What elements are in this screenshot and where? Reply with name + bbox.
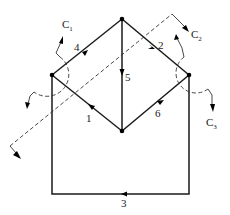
cutset-label-c3: C3 xyxy=(206,116,217,131)
arrow-c2-icon xyxy=(182,25,189,32)
cutset-label-c1: C1 xyxy=(62,18,73,33)
node-left xyxy=(50,73,55,78)
edge-label-6: 6 xyxy=(155,107,161,119)
edge-label-3: 3 xyxy=(121,197,127,209)
arrow-c1-out-icon xyxy=(25,102,30,109)
arrow-c1-icon xyxy=(59,36,63,44)
cutset-label-c2: C2 xyxy=(191,28,202,43)
edge-label-5: 5 xyxy=(125,71,131,83)
edge-label-4: 4 xyxy=(74,41,80,53)
arrow-c2-out-icon xyxy=(13,151,21,159)
circuit-graph-diagram: 4 2 5 1 6 3 C1 C2 C3 xyxy=(0,0,230,215)
node-top xyxy=(120,17,125,22)
arrow-c3-icon xyxy=(210,104,215,112)
node-bottom xyxy=(120,129,125,134)
node-right xyxy=(187,73,192,78)
cutset-c2: C2 xyxy=(10,14,202,159)
arrow-c3-in-icon xyxy=(174,34,179,40)
edge-label-1: 1 xyxy=(86,112,92,124)
arrow-edge-5-icon xyxy=(120,69,125,76)
cutset-c1: C1 xyxy=(25,18,73,109)
edge-label-2: 2 xyxy=(158,39,164,51)
arrow-edge-3-icon xyxy=(121,192,127,197)
